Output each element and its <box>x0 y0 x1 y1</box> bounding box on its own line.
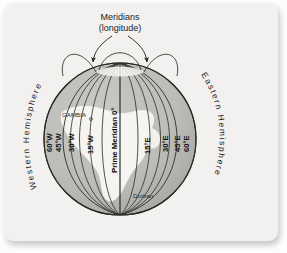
meridian-label-45W: 45°W <box>54 133 63 152</box>
meridian-label-15E: 15°E <box>143 137 152 154</box>
western-hemisphere-label: Western Hemisphere <box>21 81 44 192</box>
meridian-label-15W: 15°W <box>86 135 95 154</box>
western-hemisphere-text: Western Hemisphere <box>21 81 44 192</box>
prime-meridian-label: Prime Meridian 0° <box>110 107 119 173</box>
meridian-label-30E: 30°E <box>161 135 170 152</box>
eastern-hemisphere-text: Eastern Hemisphere <box>199 70 227 178</box>
meridian-label-60E: 60°E <box>182 135 191 152</box>
title-group: Meridians (longitude) <box>99 12 142 33</box>
title-line-2: (longitude) <box>99 23 142 33</box>
title-arrow-left <box>93 36 112 62</box>
title-line-1: Meridians <box>100 12 140 22</box>
page-root: Meridians (longitude) Western Hemisphere… <box>0 0 287 253</box>
place-label-durban: Durban <box>133 192 154 199</box>
title-arrows <box>93 36 147 62</box>
meridians-diagram: Meridians (longitude) Western Hemisphere… <box>0 0 287 253</box>
meridian-label-30W: 30°W <box>67 133 76 152</box>
place-label-gambia: GAMBIA <box>62 111 87 118</box>
meridian-label-60W: 60°W <box>45 133 54 152</box>
title-arrow-right <box>128 36 147 62</box>
eastern-hemisphere-label: Eastern Hemisphere <box>199 70 227 178</box>
meridian-label-45E: 45°E <box>173 135 182 152</box>
